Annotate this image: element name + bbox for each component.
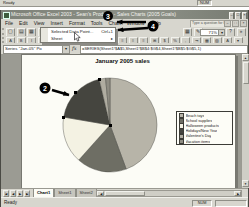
scroll-right-icon[interactable]: ▶ xyxy=(234,191,241,196)
legend-label: Halloween products xyxy=(186,124,219,128)
menu-item-selected-data-point[interactable]: Selected Data Point... Ctrl+1 xyxy=(41,28,115,35)
menu-item-chart[interactable]: Chart xyxy=(107,19,121,27)
horizontal-scroll-thumb[interactable] xyxy=(105,191,145,196)
num-lock-indicator: NUM xyxy=(192,200,212,207)
status-extra-box xyxy=(215,200,247,207)
selection-handle[interactable] xyxy=(74,91,77,94)
menu-item-edit[interactable]: Edit xyxy=(18,19,29,27)
menu-item-insert[interactable]: Insert xyxy=(49,19,64,27)
status-mode: Ready xyxy=(4,198,17,207)
prior-window-statusbar: Ready NUM xyxy=(0,0,249,7)
format-menu-dropdown: Selected Data Point... Ctrl+1 Sheet ▸ xyxy=(40,27,116,43)
workbook-close-button[interactable]: × xyxy=(240,20,247,27)
menu-item-format[interactable]: Format xyxy=(68,19,86,27)
scroll-left-icon[interactable]: ◀ xyxy=(97,191,104,196)
menu-item-shortcut: Ctrl+1 xyxy=(101,28,113,35)
menu-item-label: Selected Data Point... xyxy=(51,29,93,34)
horizontal-scrollbar[interactable]: ◀ ▶ xyxy=(96,190,242,197)
vertical-scroll-thumb[interactable] xyxy=(243,62,249,84)
name-box-arrow-icon[interactable]: ▾ xyxy=(62,45,70,54)
zoom-level-box[interactable]: 71% xyxy=(200,29,219,37)
menu-item-window[interactable]: Window xyxy=(126,19,146,27)
fx-icon[interactable]: fx xyxy=(72,45,77,51)
legend-label: Valentine's Day xyxy=(186,134,212,138)
menu-items: FileEditViewInsertFormatToolsChartWindow… xyxy=(4,19,162,27)
workbook-controls: – □ × xyxy=(224,20,247,27)
prior-status-num: NUM xyxy=(197,0,212,6)
scroll-up-icon[interactable]: ▲ xyxy=(242,54,249,61)
menu-item-help[interactable]: Help xyxy=(150,19,162,27)
first-sheet-button[interactable]: |◀ xyxy=(3,190,9,197)
screen: Ready NUM Microsoft Office Excel 2003 - … xyxy=(0,0,249,207)
chart-title[interactable]: January 2005 sales xyxy=(50,58,195,64)
legend-label: Beach toys xyxy=(186,114,205,118)
workbook-minimize-button[interactable]: – xyxy=(224,20,231,27)
name-box[interactable]: Series "Jan-05" Po xyxy=(3,45,64,54)
next-sheet-button[interactable]: ▶ xyxy=(17,190,23,197)
menu-item-file[interactable]: File xyxy=(4,19,14,27)
selection-handle[interactable] xyxy=(109,124,112,127)
title-bar: Microsoft Office Excel 2003 - Sean's Pro… xyxy=(1,10,248,19)
last-sheet-button[interactable]: ▶| xyxy=(24,190,30,197)
legend-label: School supplies xyxy=(186,119,213,123)
vertical-scrollbar[interactable]: ▲ ▼ xyxy=(241,54,249,188)
window-title: Microsoft Office Excel 2003 - Sean's Pro… xyxy=(11,10,176,19)
legend-label: Vacation items xyxy=(186,140,211,144)
status-bar: Ready NUM xyxy=(1,197,248,207)
selection-handle[interactable] xyxy=(98,78,101,81)
legend-item: Vacation items xyxy=(179,139,233,144)
selection-handle[interactable] xyxy=(62,116,65,119)
scroll-down-icon[interactable]: ▼ xyxy=(242,180,249,187)
prev-sheet-button[interactable]: ◀ xyxy=(10,190,16,197)
legend-swatch xyxy=(179,139,185,145)
tab-nav: |◀◀▶▶| xyxy=(3,190,30,197)
menu-item-tools[interactable]: Tools xyxy=(90,19,104,27)
zoom-dropdown-arrow-icon[interactable]: ▾ xyxy=(218,29,225,37)
excel-app-icon xyxy=(3,12,10,19)
formula-input[interactable]: =SERIES(Sheet1!$A$5,Sheet1!$B$4:$G$4,She… xyxy=(80,45,248,54)
submenu-arrow-icon: ▸ xyxy=(111,35,113,42)
menu-item-view[interactable]: View xyxy=(33,19,46,27)
menu-item-label: Sheet xyxy=(51,36,62,41)
legend-label: Holidays/New Year xyxy=(186,129,218,133)
menu-item-sheet[interactable]: Sheet ▸ xyxy=(41,35,115,42)
workbook-restore-button[interactable]: □ xyxy=(232,20,239,27)
chart-legend[interactable]: Beach toysSchool suppliesHalloween produ… xyxy=(176,111,233,145)
prior-status-ready: Ready xyxy=(3,0,15,6)
